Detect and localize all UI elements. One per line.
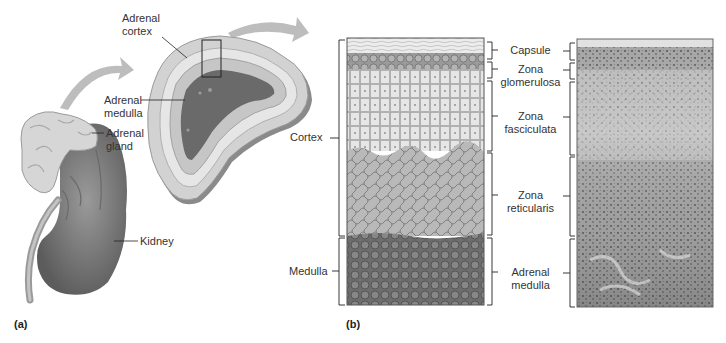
zone-label-capsule: Capsule — [498, 44, 563, 57]
figure-artwork — [0, 0, 726, 343]
zone-label-line2: reticularis — [496, 202, 565, 215]
zone-label-line1: Zona — [496, 110, 565, 123]
zone-label-line2: glomerulosa — [496, 76, 565, 89]
zone-label-line1: Adrenal — [496, 266, 565, 279]
label-kidney: Kidney — [140, 235, 174, 248]
panel-b-tag: (b) — [346, 318, 360, 330]
adrenal-cross-section — [148, 36, 312, 204]
label-adrenal-medulla: Adrenal medulla — [104, 94, 143, 120]
zone-label-line1: Capsule — [498, 44, 563, 57]
label-adrenal-cortex: Adrenal cortex — [122, 12, 160, 38]
panel-a-tag: (a) — [14, 318, 27, 330]
zone-label-line2: medulla — [496, 279, 565, 292]
zone-label-glomerulosa: Zona glomerulosa — [496, 63, 565, 89]
zone-label-line1: Zona — [496, 63, 565, 76]
label-adrenal-gland: Adrenal gland — [106, 127, 144, 153]
zone-label-reticularis: Zona reticularis — [496, 189, 565, 215]
zone-drawing — [347, 38, 484, 305]
zone-label-fasciculata: Zona fasciculata — [496, 110, 565, 136]
histology-photo — [577, 39, 713, 307]
label-cortex: Cortex — [290, 131, 322, 144]
zone-label-line1: Zona — [496, 189, 565, 202]
zone-label-line2: fasciculata — [496, 123, 565, 136]
zone-label-adrenal-medulla: Adrenal medulla — [496, 266, 565, 292]
label-medulla: Medulla — [289, 265, 328, 278]
